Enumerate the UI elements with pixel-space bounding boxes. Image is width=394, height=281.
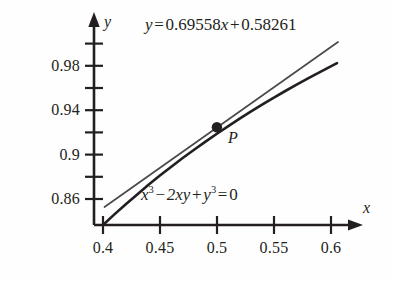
curve-eq-rhs: 0 xyxy=(229,185,238,204)
curve-eq-term2: 2xy xyxy=(167,185,191,204)
y-tick-label-0-94: 0.94 xyxy=(22,102,80,118)
x-tick-label-0-5: 0.5 xyxy=(189,240,245,256)
point-p-label: P xyxy=(228,130,238,146)
point-p-marker xyxy=(212,122,222,132)
tangent-eq-intercept: 0.58261 xyxy=(241,15,296,34)
curve-eq-term3: y xyxy=(203,185,211,204)
y-tick-label-0-86: 0.86 xyxy=(22,191,80,207)
tangent-equation: y=0.69558x+0.58261 xyxy=(145,16,297,33)
tangent-eq-equals: = xyxy=(153,15,166,34)
x-tick-label-0-6: 0.6 xyxy=(303,240,359,256)
x-axis-label: x xyxy=(363,200,370,216)
tangent-eq-lhs: y xyxy=(145,15,153,34)
curve-equation: x3−2xy+y3=0 xyxy=(141,186,238,203)
curve-eq-plus: + xyxy=(190,185,203,204)
x-tick-label-0-55: 0.55 xyxy=(246,240,302,256)
x-tick-label-0-4: 0.4 xyxy=(75,240,131,256)
y-tick-label-0-98: 0.98 xyxy=(22,58,80,74)
curve-eq-minus: − xyxy=(154,185,167,204)
x-axis xyxy=(94,219,363,230)
tangent-eq-plus: + xyxy=(228,15,241,34)
tangent-eq-slope: 0.69558 xyxy=(166,15,221,34)
math-figure: 0.98 0.94 0.9 0.86 0.4 0.45 0.5 0.55 0.6… xyxy=(0,0,394,281)
y-axis-label: y xyxy=(104,14,111,30)
curve-eq-equals: = xyxy=(216,185,229,204)
curve-eq-term1: x xyxy=(141,185,149,204)
y-tick-label-0-9: 0.9 xyxy=(22,147,80,163)
x-tick-label-0-45: 0.45 xyxy=(132,240,188,256)
